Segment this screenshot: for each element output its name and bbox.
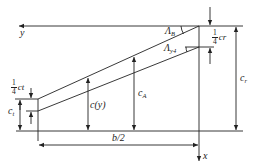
half-span-label: b/2 (112, 133, 125, 143)
root-chord-label: cr (240, 73, 247, 85)
local-chord-label: c(y) (90, 100, 106, 110)
y-axis-label: y (20, 28, 24, 38)
quarter-chord-line (38, 47, 199, 111)
sweep-qc-label: Λy4 (164, 43, 176, 55)
sweep-le-angle-arc (181, 26, 184, 34)
mean-chord-label: cA (138, 88, 146, 100)
tip-chord-label: ct (8, 106, 14, 118)
sweep-le-label: ΛB (165, 26, 175, 38)
quarter-tip-chord-label: 14 ct (11, 79, 24, 95)
sweep-qc-angle-arc (186, 47, 187, 52)
wing-planform-diagram (0, 0, 253, 167)
x-axis-label: x (203, 151, 207, 161)
quarter-root-chord-label: 14 cr (212, 29, 226, 45)
